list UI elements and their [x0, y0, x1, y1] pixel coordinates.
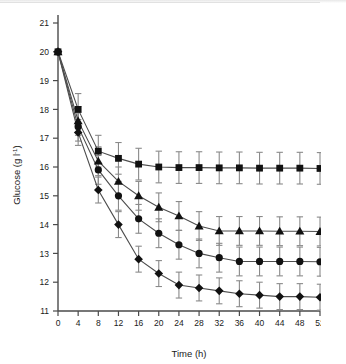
- data-point-marker-square: [155, 164, 162, 171]
- x-tick-layer: 0481216202428323640444852: [56, 311, 325, 328]
- data-point-marker-circle: [135, 215, 142, 222]
- y-axis-tick-label: 15: [40, 191, 50, 201]
- data-point-marker-diamond: [235, 289, 244, 298]
- y-tick-layer: 1112131415161718192021: [40, 18, 58, 316]
- x-axis-tick-label: 0: [56, 318, 61, 328]
- error-bar-layer: [75, 94, 323, 311]
- data-point-marker-square: [135, 161, 142, 168]
- data-point-marker-circle: [115, 192, 122, 199]
- data-point-marker-triangle: [94, 157, 103, 165]
- data-point-marker-square: [75, 106, 82, 113]
- data-point-marker-triangle: [255, 226, 264, 234]
- data-point-marker-triangle: [235, 226, 244, 234]
- data-point-marker-diamond: [195, 284, 204, 293]
- y-axis-title-close: ): [11, 145, 22, 148]
- data-point-marker-diamond: [154, 269, 163, 278]
- x-axis-title: Time (h): [171, 348, 206, 359]
- data-point-marker-square: [256, 165, 263, 172]
- x-axis-tick-label: 20: [154, 318, 164, 328]
- y-axis-tick-label: 18: [40, 105, 50, 115]
- data-point-marker-square: [95, 148, 102, 155]
- y-axis-title-group: Glucose (g l-1): [11, 145, 22, 204]
- markers-series-circle: [54, 48, 323, 265]
- x-axis-tick-label: 16: [134, 318, 144, 328]
- data-point-marker-circle: [296, 258, 303, 265]
- glucose-line-plot: 1112131415161718192021 04812162024283236…: [0, 0, 346, 364]
- data-point-marker-square: [196, 164, 203, 171]
- data-point-marker-circle: [195, 250, 202, 257]
- y-axis-tick-label: 14: [40, 220, 50, 230]
- data-point-marker-triangle: [154, 203, 163, 211]
- x-axis-tick-label: 32: [214, 318, 224, 328]
- x-axis-tick-label: 40: [255, 318, 265, 328]
- y-axis-tick-label: 20: [40, 47, 50, 57]
- plot-right-clip: [321, 0, 346, 364]
- data-point-marker-diamond: [275, 292, 284, 301]
- markers-series-triangle: [54, 47, 325, 235]
- y-axis-tick-label: 19: [40, 76, 50, 86]
- y-axis-tick-label: 11: [40, 306, 49, 316]
- x-axis-tick-label: 48: [295, 318, 305, 328]
- data-point-marker-circle: [256, 258, 263, 265]
- x-axis-tick-label: 4: [76, 318, 81, 328]
- data-point-marker-square: [176, 164, 183, 171]
- data-point-marker-circle: [155, 230, 162, 237]
- data-point-marker-diamond: [296, 292, 305, 301]
- data-point-marker-square: [296, 165, 303, 172]
- x-axis-tick-label: 36: [235, 318, 245, 328]
- data-point-marker-diamond: [215, 287, 224, 296]
- y-axis-tick-label: 16: [40, 162, 50, 172]
- data-point-marker-circle: [175, 241, 182, 248]
- y-axis-tick-label: 17: [40, 133, 50, 143]
- series-line-series-triangle: [58, 52, 320, 232]
- y-axis-tick-label: 21: [40, 18, 50, 28]
- glucose-time-chart-figure: 1112131415161718192021 04812162024283236…: [0, 0, 346, 364]
- x-axis-tick-label: 24: [174, 318, 184, 328]
- data-point-marker-triangle: [295, 227, 304, 235]
- x-axis-tick-label: 8: [96, 318, 101, 328]
- y-axis-title: Glucose (g l-1): [11, 145, 22, 204]
- x-axis-tick-label: 28: [194, 318, 204, 328]
- markers-series-square: [55, 48, 324, 171]
- data-point-marker-diamond: [255, 291, 264, 300]
- data-point-marker-diamond: [175, 281, 184, 290]
- y-axis-tick-label: 13: [40, 249, 50, 259]
- data-point-marker-square: [115, 155, 122, 162]
- y-axis-tick-label: 12: [40, 277, 50, 287]
- markers-series-diamond: [54, 48, 325, 302]
- data-point-marker-triangle: [195, 222, 204, 230]
- series-marker-layer: [54, 47, 325, 301]
- data-point-marker-square: [236, 164, 243, 171]
- data-point-marker-circle: [236, 258, 243, 265]
- x-axis-tick-label: 44: [275, 318, 285, 328]
- y-axis-title-base: Glucose (g l: [11, 154, 22, 205]
- data-point-marker-circle: [276, 258, 283, 265]
- data-point-marker-diamond: [134, 255, 143, 264]
- data-point-marker-diamond: [114, 220, 123, 229]
- data-point-marker-circle: [216, 254, 223, 261]
- data-point-marker-square: [276, 165, 283, 172]
- data-point-marker-diamond: [94, 186, 103, 195]
- data-point-marker-circle: [95, 166, 102, 173]
- data-point-marker-square: [216, 164, 223, 171]
- data-point-marker-triangle: [174, 211, 183, 219]
- data-point-marker-triangle: [134, 191, 143, 199]
- x-axis-tick-label: 12: [114, 318, 124, 328]
